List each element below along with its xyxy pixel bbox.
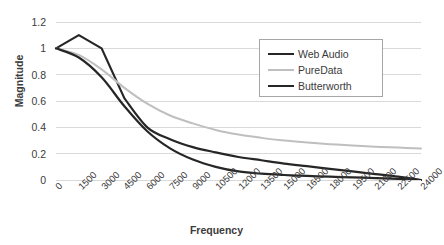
- legend-item-label: Web Audio: [298, 49, 349, 60]
- chart-legend: Web AudioPureDataButterworth: [259, 39, 383, 97]
- legend-swatch-icon: [268, 53, 294, 55]
- legend-item: PureData: [268, 62, 342, 78]
- legend-swatch-icon: [268, 85, 294, 87]
- x-axis-title: Frequency: [0, 224, 433, 236]
- legend-item: Web Audio: [268, 46, 349, 62]
- legend-swatch-icon: [268, 69, 294, 71]
- legend-item-label: PureData: [298, 65, 342, 76]
- legend-item-label: Butterworth: [298, 81, 352, 92]
- legend-item: Butterworth: [268, 78, 352, 94]
